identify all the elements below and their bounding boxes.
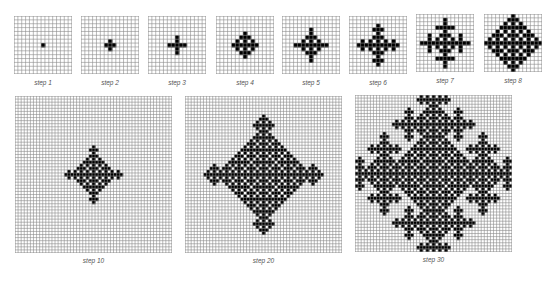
step-label: step 4	[216, 79, 274, 86]
cell-grid	[416, 14, 474, 72]
step-label: step 3	[148, 79, 206, 86]
step-label: step 10	[15, 257, 172, 264]
step-label: step 5	[282, 79, 340, 86]
cell-grid	[15, 96, 172, 253]
step-label: step 20	[185, 257, 342, 264]
cell-grid	[484, 14, 542, 72]
grid-panel-step-3: step 3	[148, 16, 206, 74]
grid-panel-step-10: step 10	[15, 96, 172, 253]
cell-grid	[349, 16, 407, 74]
grid-panel-step-6: step 6	[349, 16, 407, 74]
cell-grid	[81, 16, 139, 74]
cell-grid	[355, 95, 512, 252]
grid-panel-step-1: step 1	[14, 16, 72, 74]
grid-panel-step-2: step 2	[81, 16, 139, 74]
grid-panel-step-4: step 4	[216, 16, 274, 74]
grid-panel-step-5: step 5	[282, 16, 340, 74]
cell-grid	[216, 16, 274, 74]
step-label: step 6	[349, 79, 407, 86]
step-label: step 30	[355, 256, 512, 263]
cell-grid	[14, 16, 72, 74]
step-label: step 8	[484, 77, 542, 84]
step-label: step 1	[14, 79, 72, 86]
cell-grid	[185, 96, 342, 253]
cell-grid	[282, 16, 340, 74]
step-label: step 7	[416, 77, 474, 84]
grid-panel-step-20: step 20	[185, 96, 342, 253]
grid-panel-step-30: step 30	[355, 95, 512, 252]
step-label: step 2	[81, 79, 139, 86]
grid-panel-step-7: step 7	[416, 14, 474, 72]
cell-grid	[148, 16, 206, 74]
grid-panel-step-8: step 8	[484, 14, 542, 72]
